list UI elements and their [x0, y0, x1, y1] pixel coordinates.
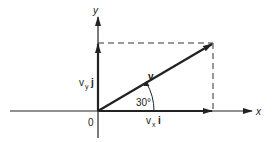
svg-text:i: i	[158, 115, 161, 126]
svg-text:v: v	[79, 77, 84, 88]
svg-text:x: x	[152, 121, 156, 128]
y-axis-label: y	[92, 5, 99, 16]
svg-text:j: j	[90, 77, 94, 88]
vector-diagram: y x 0 v 30° v y j v x i	[0, 0, 275, 142]
x-component-label: v x i	[146, 115, 161, 128]
origin-label: 0	[88, 117, 94, 128]
angle-label: 30°	[136, 97, 151, 108]
y-component-label: v y j	[79, 77, 94, 91]
vector-v	[98, 44, 212, 111]
x-axis-label: x	[255, 106, 262, 117]
svg-text:v: v	[146, 115, 151, 126]
diagram-canvas: y x 0 v 30° v y j v x i	[0, 0, 275, 142]
svg-text:y: y	[85, 83, 89, 91]
vector-label: v	[148, 71, 154, 82]
